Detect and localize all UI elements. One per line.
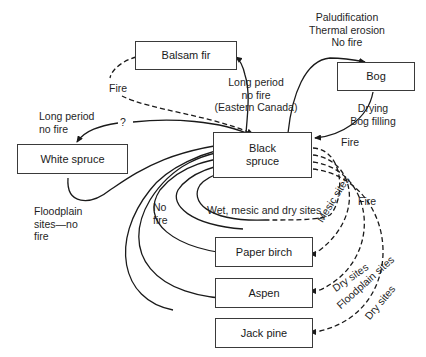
label-floodplain-no-fire: Floodplain sites—no fire: [34, 205, 82, 243]
node-label: Paper birch: [236, 246, 292, 259]
node-label: Black: [249, 142, 276, 155]
label-line: Paludification: [302, 11, 392, 24]
label-line: Floodplain: [34, 205, 82, 218]
label-no-fire: No fire: [153, 201, 168, 226]
node-black-spruce: Black spruce: [213, 132, 312, 178]
label-line: No: [153, 201, 168, 214]
label-fire-bog: Fire: [341, 136, 359, 149]
label-line: fire: [34, 230, 82, 243]
label-long-period-white: Long period no fire: [39, 110, 94, 135]
label-line: Long period: [39, 110, 94, 123]
label-fire-balsam: Fire: [109, 82, 127, 95]
label-question: ?: [120, 116, 126, 129]
label-line: Bog filling: [338, 115, 408, 128]
node-label: Jack pine: [241, 327, 287, 340]
label-line: fire: [153, 214, 168, 227]
label-drying: Drying Bog filling: [338, 102, 408, 127]
label-paludification: Paludification Thermal erosion No fire: [302, 11, 392, 49]
label-line: Thermal erosion: [302, 24, 392, 37]
node-balsam-fir: Balsam fir: [135, 41, 237, 70]
node-label: White spruce: [40, 153, 104, 166]
node-label: Balsam fir: [162, 49, 211, 62]
node-white-spruce: White spruce: [17, 144, 128, 174]
label-fire-right: Fire: [358, 195, 376, 208]
label-line: sites—no: [34, 218, 82, 231]
node-label: spruce: [246, 155, 279, 168]
label-long-period-eastern: Long period no fire (Eastern Canada): [210, 76, 302, 114]
label-line: (Eastern Canada): [210, 101, 302, 114]
label-line: no fire: [39, 123, 94, 136]
label-line: no fire: [210, 89, 302, 102]
node-label: Aspen: [248, 287, 279, 300]
node-bog: Bog: [337, 62, 415, 91]
node-aspen: Aspen: [215, 278, 313, 308]
node-label: Bog: [366, 70, 386, 83]
node-paper-birch: Paper birch: [215, 237, 313, 267]
label-line: Drying: [338, 102, 408, 115]
label-wet-mesic-dry: Wet, mesic and dry sites: [207, 204, 321, 217]
label-line: No fire: [302, 36, 392, 49]
node-jack-pine: Jack pine: [215, 318, 313, 348]
label-line: Long period: [210, 76, 302, 89]
